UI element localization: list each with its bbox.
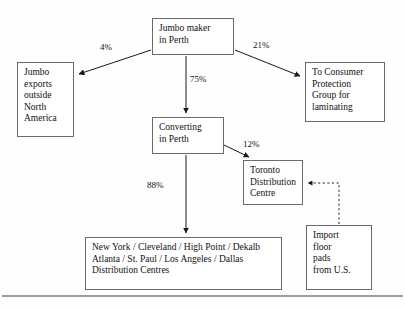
node-jumbo-maker[interactable]: Jumbo maker in Perth — [152, 18, 234, 55]
edge-label-21-percent: 21% — [253, 40, 270, 50]
edge-import-to-toronto — [308, 183, 339, 224]
edge-label-4-percent: 4% — [100, 42, 112, 52]
node-import-floor-pads[interactable]: Import floor pads from U.S. — [306, 225, 372, 290]
node-consumer-protection-group[interactable]: To Consumer Protection Group for laminat… — [305, 62, 385, 122]
edge-label-75-percent: 75% — [190, 74, 207, 84]
edge-maker-to-exports — [79, 50, 151, 74]
edge-label-88-percent: 88% — [147, 180, 164, 190]
diagram-canvas: Jumbo maker in Perth Jumbo exports outsi… — [0, 0, 405, 309]
edge-label-12-percent: 12% — [243, 139, 260, 149]
node-jumbo-exports[interactable]: Jumbo exports outside North America — [17, 62, 74, 137]
node-toronto-distribution-centre[interactable]: Toronto Distribution Centre — [243, 160, 303, 205]
edge-maker-to-consumer — [235, 50, 300, 76]
node-distribution-centres[interactable]: New York / Cleveland / High Point / Deka… — [85, 237, 282, 290]
node-converting-in-perth[interactable]: Converting in Perth — [152, 117, 224, 154]
